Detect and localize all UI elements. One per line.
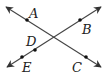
label-d: D <box>25 34 37 49</box>
label-e: E <box>21 60 32 75</box>
intersecting-lines-diagram: ABCDE <box>0 0 108 77</box>
point-e <box>20 55 24 59</box>
point-c <box>84 55 88 59</box>
label-a: A <box>28 6 38 21</box>
label-c: C <box>72 60 82 75</box>
label-b: B <box>81 22 92 37</box>
